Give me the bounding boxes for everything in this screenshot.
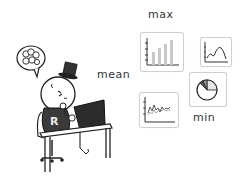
svg-text:R: R [50,115,59,128]
line-chart-card-noisy [139,92,179,128]
thought-bubble-icon [17,46,45,77]
character-head [41,77,75,111]
bar-chart-icon [141,33,183,71]
line-chart-icon [201,38,231,66]
noisy-line-chart-icon [140,93,178,127]
min-label: min [193,111,215,124]
line-chart-card-small [200,37,232,67]
pie-chart-icon [190,73,226,106]
max-label: max [148,8,173,21]
character-illustration: R [0,0,125,181]
desk-icon [40,124,112,172]
pie-chart-card [189,72,227,107]
bar-chart-card [140,32,184,72]
